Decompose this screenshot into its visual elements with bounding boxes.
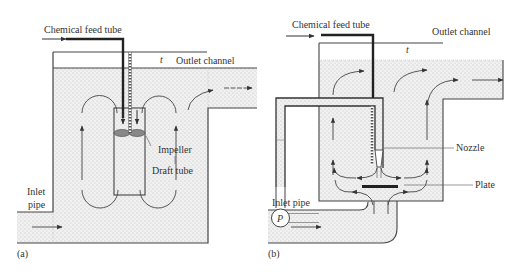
label-chemical-feed-tube-b: Chemical feed tube [292, 19, 370, 30]
plate [362, 185, 398, 188]
impeller-left [114, 130, 130, 137]
panel-tag-b: (b) [268, 248, 280, 260]
label-draft-tube: Draft tube [152, 165, 193, 176]
label-outlet-channel-a: Outlet channel [176, 55, 235, 66]
label-t-b: t [406, 44, 409, 55]
diagram-canvas: Chemical feed tube t Outlet channel Impe… [0, 0, 520, 274]
label-plate: Plate [475, 179, 496, 190]
label-nozzle: Nozzle [456, 142, 485, 153]
panel-tag-a: (a) [17, 248, 28, 260]
label-chemical-feed-tube-a: Chemical feed tube [44, 24, 122, 35]
panel-a: Chemical feed tube t Outlet channel Impe… [17, 24, 257, 260]
label-inlet-pipe-b: Inlet pipe [272, 197, 311, 208]
label-t-a: t [160, 54, 163, 65]
label-impeller: Impeller [158, 144, 193, 155]
panel-b: P Chemical feed tube Outlet channel t [268, 19, 503, 260]
label-outlet-channel-b: Outlet channel [432, 26, 491, 37]
label-pipe-a: pipe [28, 199, 46, 210]
label-pump: P [276, 213, 283, 224]
label-inlet-a: Inlet [27, 186, 46, 197]
pump-connection-fill [289, 214, 319, 222]
